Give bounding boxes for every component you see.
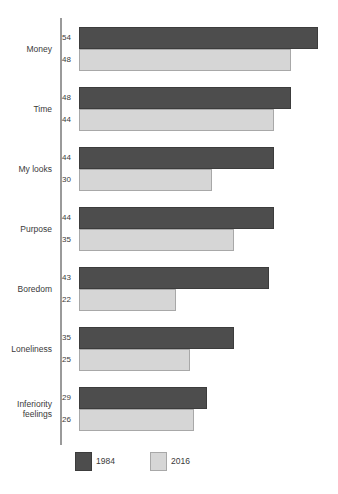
category-label: Loneliness	[0, 344, 52, 354]
category-label: Inferiorityfeelings	[0, 399, 52, 419]
light-swatch	[150, 452, 167, 471]
dark-swatch	[75, 452, 92, 471]
bar-value-label: 48	[62, 94, 76, 102]
bar-2016	[79, 289, 176, 311]
bar-1984	[79, 387, 207, 409]
bar-group: Purpose4435	[0, 207, 338, 251]
bar-value-label: 44	[62, 214, 76, 222]
bar-1984	[79, 207, 274, 229]
bar-group: Money5448	[0, 27, 338, 71]
bar-group: Boredom4322	[0, 267, 338, 311]
bar-value-label: 35	[62, 334, 76, 342]
bar-value-label: 29	[62, 394, 76, 402]
bar-1984	[79, 327, 234, 349]
bar-value-label: 35	[62, 236, 76, 244]
bar-value-label: 26	[62, 416, 76, 424]
bar-group: My looks4430	[0, 147, 338, 191]
legend-label: 2016	[171, 457, 190, 466]
category-label: Boredom	[0, 284, 52, 294]
bar-value-label: 22	[62, 296, 76, 304]
bar-2016	[79, 349, 190, 371]
bar-2016	[79, 49, 291, 71]
legend-label: 1984	[96, 457, 115, 466]
bar-value-label: 43	[62, 274, 76, 282]
bar-2016	[79, 229, 234, 251]
chart-legend: 19842016	[0, 452, 338, 476]
bar-value-label: 48	[62, 56, 76, 64]
plot-area: Money5448Time4844My looks4430Purpose4435…	[0, 0, 338, 494]
category-label: Purpose	[0, 224, 52, 234]
bar-value-label: 25	[62, 356, 76, 364]
bar-group: Time4844	[0, 87, 338, 131]
bar-2016	[79, 169, 212, 191]
bar-value-label: 54	[62, 34, 76, 42]
category-label: Time	[0, 104, 52, 114]
bar-1984	[79, 87, 291, 109]
bar-value-label: 44	[62, 116, 76, 124]
bar-value-label: 30	[62, 176, 76, 184]
bar-chart: Money5448Time4844My looks4430Purpose4435…	[0, 0, 338, 494]
bar-group: Inferiorityfeelings2926	[0, 387, 338, 431]
bar-value-label: 44	[62, 154, 76, 162]
bar-1984	[79, 147, 274, 169]
bar-2016	[79, 109, 274, 131]
bar-1984	[79, 27, 318, 49]
bar-group: Loneliness3525	[0, 327, 338, 371]
category-label: My looks	[0, 164, 52, 174]
category-label: Money	[0, 44, 52, 54]
bar-2016	[79, 409, 194, 431]
bar-1984	[79, 267, 269, 289]
